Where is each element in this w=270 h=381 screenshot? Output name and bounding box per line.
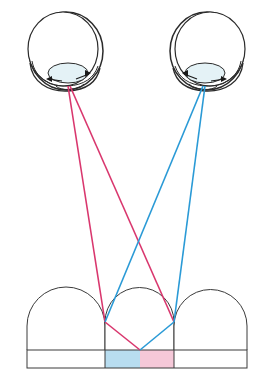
- arch-group: [27, 287, 247, 350]
- region-pink: [140, 350, 174, 368]
- binocular-vision-diagram: [0, 0, 270, 381]
- region-blue: [105, 350, 140, 368]
